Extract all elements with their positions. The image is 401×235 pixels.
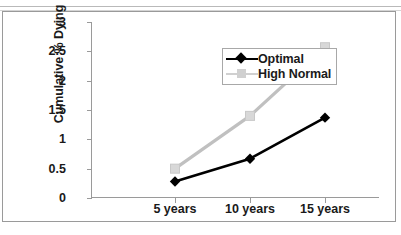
x-tick-label: 15 years: [300, 202, 350, 216]
y-tick-label: 3: [18, 15, 66, 29]
y-axis-tick: [87, 198, 92, 199]
y-tick-label: 0.5: [18, 162, 66, 176]
data-point-optimal: [320, 112, 330, 122]
chart-figure-box: Cumulative % Dying 3 2.5 2 1.5 1 0.5 0: [2, 11, 396, 222]
x-tick-label: 5 years: [153, 202, 196, 216]
legend-item-optimal: Optimal: [226, 51, 331, 66]
data-point-optimal: [170, 176, 180, 186]
legend-marker-diamond-icon: [226, 52, 258, 65]
line-optimal: [175, 118, 325, 182]
legend-label-high-normal: High Normal: [258, 67, 331, 81]
x-axis-tick-labels: 5 years 10 years 15 years: [91, 202, 379, 222]
legend-label-optimal: Optimal: [258, 52, 304, 66]
y-tick-label: 1.5: [18, 103, 66, 117]
plot-area: Optimal High Normal: [91, 22, 379, 198]
y-tick-label: 1: [18, 132, 66, 146]
x-tick-label: 10 years: [225, 202, 275, 216]
y-axis-tick-labels: 3 2.5 2 1.5 1 0.5 0: [18, 12, 66, 223]
legend-item-high-normal: High Normal: [226, 66, 331, 81]
data-point-high-normal: [171, 164, 180, 173]
data-point-high-normal: [246, 111, 255, 120]
y-tick-label: 0: [18, 191, 66, 205]
y-tick-label: 2.5: [18, 44, 66, 58]
data-point-optimal: [245, 153, 255, 163]
legend-marker-square-icon: [226, 67, 258, 80]
y-tick-label: 2: [18, 74, 66, 88]
chart-screenshot: Cumulative % Dying 3 2.5 2 1.5 1 0.5 0: [0, 0, 401, 235]
chart-legend: Optimal High Normal: [222, 48, 337, 85]
